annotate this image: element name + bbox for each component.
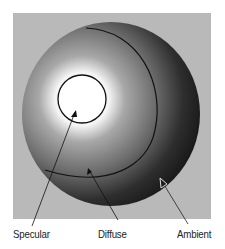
specular-label: Specular <box>13 228 50 240</box>
sphere <box>22 22 200 206</box>
ambient-leader-arrow <box>160 178 188 224</box>
sphere-diagram <box>0 0 225 249</box>
diffuse-label: Diffuse <box>98 228 127 240</box>
ambient-label: Ambient <box>177 228 211 240</box>
specular-highlight <box>58 75 106 123</box>
